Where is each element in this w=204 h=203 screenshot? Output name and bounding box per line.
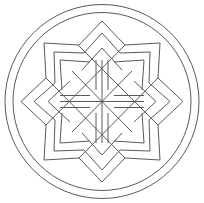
center-star xyxy=(60,60,144,143)
mandala-artwork xyxy=(0,0,204,203)
